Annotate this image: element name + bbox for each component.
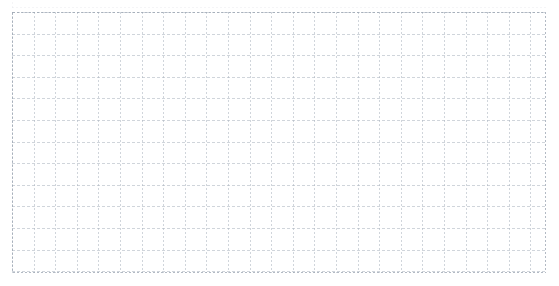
grid-sheet-canvas	[0, 0, 559, 286]
grid-lines	[12, 12, 546, 273]
dotted-graph-paper[interactable]	[12, 12, 546, 273]
clipped-grid-row	[12, 0, 546, 8]
